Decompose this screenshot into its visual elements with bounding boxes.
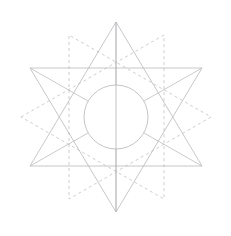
figure-background [0, 0, 231, 236]
star-figure-canvas [0, 0, 231, 236]
